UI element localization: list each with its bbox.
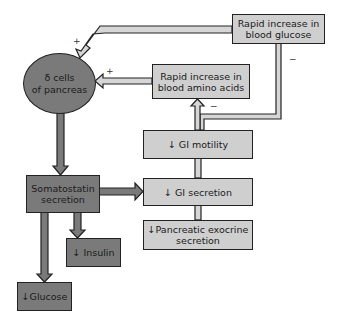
glucose-box: ↓Glucose [17, 282, 72, 311]
blood-glucose-box: Rapid increase in blood glucose [232, 14, 325, 44]
arrow-amino-to-delta [95, 74, 152, 88]
gi-secretion-box: ↓ GI secretion [143, 178, 253, 206]
arrow-glucose-to-delta [76, 26, 232, 58]
blood-glucose-line1: Rapid increase in [238, 18, 320, 29]
gi-motility-label: ↓ GI motility [168, 139, 228, 150]
pancreatic-exocrine-line1: ↓Pancreatic exocrine [148, 224, 249, 235]
arrow-somatostatin-to-insulin [70, 212, 85, 238]
pancreatic-exocrine-line2: secretion [148, 235, 249, 246]
sign-feedback-glucose: − [289, 54, 297, 64]
insulin-box: ↓ Insulin [66, 238, 121, 267]
blood-glucose-line2: blood glucose [238, 29, 320, 40]
sign-feedback-amino: − [210, 101, 218, 111]
arrow-somatostatin-to-gi [99, 183, 143, 200]
sign-glucose-to-delta: + [73, 36, 81, 46]
amino-acids-line2: blood amino acids [158, 82, 245, 93]
somatostatin-line1: Somatostatin [31, 183, 94, 194]
amino-acids-line1: Rapid increase in [158, 71, 245, 82]
arrow-somatostatin-to-glucose [37, 212, 52, 282]
delta-cells-node: δ cells of pancreas [23, 53, 96, 114]
connector-motility-secretion [195, 158, 201, 178]
connector-secretion-exocrine [195, 205, 201, 220]
delta-cells-line2: of pancreas [32, 84, 88, 96]
gi-secretion-label: ↓ GI secretion [164, 187, 232, 198]
somatostatin-box: Somatostatin secretion [26, 175, 100, 213]
gi-motility-box: ↓ GI motility [143, 130, 253, 159]
insulin-label: ↓ Insulin [72, 247, 114, 258]
somatostatin-line2: secretion [31, 194, 94, 205]
arrow-delta-to-somatostatin [53, 113, 68, 175]
connector-arrows [0, 0, 337, 324]
pancreatic-exocrine-box: ↓Pancreatic exocrine secretion [143, 220, 253, 250]
sign-amino-to-delta: + [106, 66, 114, 76]
delta-cells-line1: δ cells [32, 72, 88, 84]
glucose-label: ↓Glucose [22, 291, 68, 302]
amino-acids-box: Rapid increase in blood amino acids [152, 64, 250, 99]
